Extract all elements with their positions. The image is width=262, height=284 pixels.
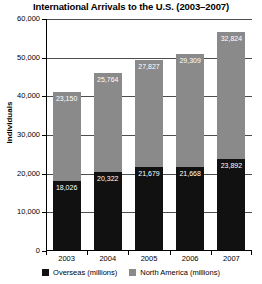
bar-value-label: 20,322 [94,175,122,183]
x-axis-line [46,250,252,251]
x-tick-label: 2005 [126,254,172,263]
y-tick-label: 20,000 [0,170,40,178]
bar-segment-north-america[interactable]: 27,827 [135,60,163,168]
y-axis-title: Individuals [5,93,14,153]
bar-group[interactable]: 20,32225,764 [94,19,122,251]
bar-value-label: 23,892 [217,162,245,170]
y-tick-mark [42,96,46,97]
bar-segment-overseas[interactable]: 20,322 [94,172,122,251]
legend-swatch-icon [129,269,136,276]
bar-value-label: 21,679 [135,170,163,178]
y-tick-label: 40,000 [0,92,40,100]
bar-group[interactable]: 23,89232,824 [217,19,245,251]
chart-title: International Arrivals to the U.S. (2003… [0,1,262,12]
bar-value-label: 23,150 [53,95,81,103]
y-tick-label: 60,000 [0,15,40,23]
bar-value-label: 21,668 [176,170,204,178]
y-tick-label: 10,000 [0,208,40,216]
bar-value-label: 32,824 [217,35,245,43]
bar-group[interactable]: 21,66829,309 [176,19,204,251]
y-tick-mark [42,19,46,20]
stacked-bar-chart: International Arrivals to the U.S. (2003… [0,0,262,284]
y-tick-label: 30,000 [0,131,40,139]
bar-value-label: 27,827 [135,63,163,71]
x-tick-label: 2007 [208,254,254,263]
x-tick-label: 2004 [85,254,131,263]
y-tick-mark [42,135,46,136]
legend-item[interactable]: North America (millions) [129,268,220,277]
bar-group[interactable]: 18,02623,150 [53,19,81,251]
legend-item[interactable]: Overseas (millions) [42,268,117,277]
legend-label: Overseas (millions) [53,268,117,277]
y-axis-line [46,19,47,251]
bar-segment-overseas[interactable]: 23,892 [217,159,245,251]
legend-swatch-icon [42,269,49,276]
bar-value-label: 25,764 [94,76,122,84]
bar-segment-north-america[interactable]: 23,150 [53,92,81,182]
y-tick-label: 0 [0,247,40,255]
bar-group[interactable]: 21,67927,827 [135,19,163,251]
x-tick-label: 2006 [167,254,213,263]
y-tick-label: 50,000 [0,54,40,62]
bar-segment-north-america[interactable]: 32,824 [217,32,245,159]
plot-area: 18,02623,15020,32225,76421,67927,82721,6… [46,19,252,251]
bar-segment-north-america[interactable]: 25,764 [94,73,122,173]
bar-value-label: 29,309 [176,57,204,65]
x-tick-label: 2003 [44,254,90,263]
legend-label: North America (millions) [140,268,220,277]
y-tick-mark [42,174,46,175]
bar-segment-north-america[interactable]: 29,309 [176,54,204,167]
y-tick-mark [42,58,46,59]
bar-value-label: 18,026 [53,184,81,192]
y-tick-mark [42,251,46,252]
bar-segment-overseas[interactable]: 18,026 [53,181,81,251]
chart-legend: Overseas (millions)North America (millio… [0,268,262,277]
bar-segment-overseas[interactable]: 21,679 [135,167,163,251]
y-tick-mark [42,212,46,213]
bar-segment-overseas[interactable]: 21,668 [176,167,204,251]
